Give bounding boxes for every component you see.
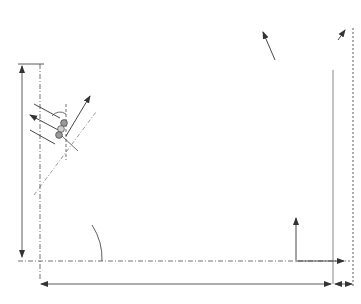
x3-axis — [263, 32, 275, 60]
transducer-surface-line — [62, 136, 78, 151]
theta-arc — [52, 112, 66, 116]
transducer-housing-top — [34, 104, 60, 118]
transducer-atom — [56, 132, 63, 139]
x1-axis — [338, 30, 345, 40]
wedge-angle-arc — [92, 225, 102, 261]
transducer-housing-bottom — [30, 130, 55, 144]
transducer — [0, 0, 96, 195]
transducer-x1-axis — [66, 96, 90, 136]
transducer-x3-axis — [30, 115, 62, 132]
wedge-interface-diagram — [0, 0, 361, 304]
